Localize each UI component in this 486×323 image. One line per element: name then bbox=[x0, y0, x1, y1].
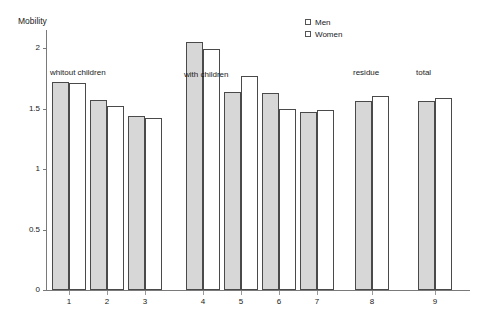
y-axis-title: Mobility bbox=[18, 16, 47, 26]
bar-men-group-1 bbox=[52, 82, 69, 290]
y-tick-mark bbox=[43, 230, 47, 231]
bar-women-group-1 bbox=[69, 83, 86, 290]
legend-item-men: Men bbox=[305, 16, 342, 28]
x-tick-label: 4 bbox=[193, 297, 213, 306]
y-tick-mark bbox=[43, 169, 47, 170]
group-label-total: total bbox=[416, 68, 431, 77]
bar-men-group-6 bbox=[262, 93, 279, 290]
group-label-with-children: with children bbox=[184, 70, 228, 79]
bar-women-group-4 bbox=[203, 49, 220, 290]
group-label-residue: residue bbox=[353, 68, 379, 77]
legend-swatch-men-icon bbox=[305, 19, 311, 25]
bar-men-group-8 bbox=[355, 101, 372, 290]
legend-label-women: Women bbox=[315, 30, 342, 39]
y-tick-label: 0.5 bbox=[12, 225, 40, 234]
bar-women-group-8 bbox=[372, 96, 389, 290]
y-tick-label: 0 bbox=[12, 285, 40, 294]
bar-men-group-4 bbox=[186, 42, 203, 290]
x-tick-mark bbox=[107, 291, 108, 295]
legend-swatch-women-icon bbox=[305, 31, 311, 37]
legend-label-men: Men bbox=[315, 18, 331, 27]
x-tick-mark bbox=[145, 291, 146, 295]
x-tick-mark bbox=[279, 291, 280, 295]
bar-men-group-2 bbox=[90, 100, 107, 290]
bar-men-group-9 bbox=[418, 101, 435, 290]
x-tick-mark bbox=[69, 291, 70, 295]
x-tick-label: 8 bbox=[362, 297, 382, 306]
x-axis-line bbox=[46, 290, 470, 291]
group-label-whitout-children: whitout children bbox=[50, 68, 106, 77]
plot-area: Mobility 00.511.52 123456789 whitout chi… bbox=[0, 0, 486, 323]
y-tick-label: 1.5 bbox=[12, 104, 40, 113]
y-tick-mark bbox=[43, 48, 47, 49]
mobility-bar-chart: Mobility 00.511.52 123456789 whitout chi… bbox=[0, 0, 486, 323]
legend: Men Women bbox=[305, 16, 342, 40]
x-tick-label: 6 bbox=[269, 297, 289, 306]
y-tick-label: 1 bbox=[12, 164, 40, 173]
x-tick-label: 3 bbox=[135, 297, 155, 306]
x-tick-mark bbox=[241, 291, 242, 295]
bar-women-group-9 bbox=[435, 98, 452, 290]
bar-women-group-5 bbox=[241, 76, 258, 290]
bar-women-group-6 bbox=[279, 109, 296, 291]
x-tick-label: 1 bbox=[59, 297, 79, 306]
x-tick-label: 2 bbox=[97, 297, 117, 306]
x-tick-label: 9 bbox=[425, 297, 445, 306]
x-tick-label: 7 bbox=[307, 297, 327, 306]
y-tick-mark bbox=[43, 290, 47, 291]
bar-women-group-3 bbox=[145, 118, 162, 290]
bar-women-group-2 bbox=[107, 106, 124, 290]
legend-item-women: Women bbox=[305, 28, 342, 40]
x-tick-mark bbox=[372, 291, 373, 295]
x-tick-label: 5 bbox=[231, 297, 251, 306]
x-tick-mark bbox=[317, 291, 318, 295]
x-tick-mark bbox=[435, 291, 436, 295]
bar-men-group-7 bbox=[300, 112, 317, 290]
bar-women-group-7 bbox=[317, 110, 334, 290]
x-tick-mark bbox=[203, 291, 204, 295]
bar-men-group-3 bbox=[128, 116, 145, 290]
y-tick-mark bbox=[43, 109, 47, 110]
y-axis-line bbox=[46, 30, 47, 291]
y-tick-label: 2 bbox=[12, 43, 40, 52]
bar-men-group-5 bbox=[224, 92, 241, 290]
